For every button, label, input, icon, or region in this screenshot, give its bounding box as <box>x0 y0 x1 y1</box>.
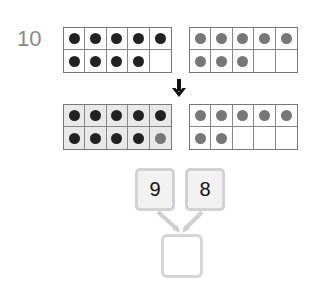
ten-frame-cell <box>85 50 106 72</box>
black-dot-icon <box>133 133 144 144</box>
ten-frame-cell <box>276 105 297 127</box>
ten-frame-cell <box>107 28 128 50</box>
ten-frame-cell <box>190 105 211 127</box>
gray-dot-icon <box>195 56 206 67</box>
ten-frame-cell <box>107 127 128 149</box>
ten-frame-cell <box>64 28 85 50</box>
ten-frame-cell <box>233 127 254 149</box>
ten-frame-top-right <box>189 27 298 73</box>
black-dot-icon <box>90 33 101 44</box>
ten-frame-cell <box>190 50 211 72</box>
black-dot-icon <box>90 56 101 67</box>
ten-frame-top-left <box>63 27 172 73</box>
gray-dot-icon <box>195 110 206 121</box>
ten-frame-cell <box>128 105 149 127</box>
ten-frame-cell <box>254 127 275 149</box>
ten-frame-cell <box>107 50 128 72</box>
black-dot-icon <box>111 110 122 121</box>
ten-frame-cell <box>254 105 275 127</box>
ten-frame-cell <box>150 50 171 72</box>
gray-dot-icon <box>281 33 292 44</box>
gray-dot-icon <box>216 56 227 67</box>
ten-frame-cell <box>211 50 232 72</box>
ten-frame-cell <box>128 50 149 72</box>
ten-frame-cell <box>190 28 211 50</box>
black-dot-icon <box>69 33 80 44</box>
down-arrow-icon <box>171 79 187 99</box>
ten-frame-cell <box>64 105 85 127</box>
ten-frame-cell <box>254 50 275 72</box>
ten-frame-cell <box>211 127 232 149</box>
ten-frame-cell <box>150 28 171 50</box>
ten-frame-cell <box>128 127 149 149</box>
gray-dot-icon <box>259 33 270 44</box>
black-dot-icon <box>69 56 80 67</box>
ten-frame-cell <box>64 50 85 72</box>
ten-frame-cell <box>85 127 106 149</box>
ten-frame-cell <box>150 127 171 149</box>
bond-answer-box[interactable] <box>161 234 203 278</box>
gray-dot-icon <box>155 133 166 144</box>
ten-frame-cell <box>190 127 211 149</box>
black-dot-icon <box>155 110 166 121</box>
ten-frame-cell <box>233 50 254 72</box>
ten-frame-cell <box>64 127 85 149</box>
black-dot-icon <box>90 133 101 144</box>
gray-dot-icon <box>195 33 206 44</box>
gray-dot-icon <box>216 33 227 44</box>
problem-number: 10 <box>17 27 41 51</box>
black-dot-icon <box>133 33 144 44</box>
ten-frame-bottom-left <box>63 104 172 150</box>
ten-frame-cell <box>233 28 254 50</box>
ten-frame-cell <box>211 28 232 50</box>
gray-dot-icon <box>237 33 248 44</box>
ten-frame-cell <box>276 50 297 72</box>
black-dot-icon <box>111 133 122 144</box>
ten-frame-bottom-right <box>189 104 298 150</box>
black-dot-icon <box>69 133 80 144</box>
gray-dot-icon <box>216 110 227 121</box>
bond-part-right: 8 <box>185 168 225 211</box>
black-dot-icon <box>155 33 166 44</box>
ten-frame-cell <box>276 28 297 50</box>
gray-dot-icon <box>195 133 206 144</box>
gray-dot-icon <box>237 56 248 67</box>
gray-dot-icon <box>281 110 292 121</box>
black-dot-icon <box>111 33 122 44</box>
black-dot-icon <box>133 56 144 67</box>
black-dot-icon <box>90 110 101 121</box>
bond-part-left: 9 <box>135 168 175 211</box>
ten-frame-cell <box>107 105 128 127</box>
ten-frame-cell <box>211 105 232 127</box>
gray-dot-icon <box>237 110 248 121</box>
ten-frame-cell <box>150 105 171 127</box>
ten-frame-cell <box>85 105 106 127</box>
ten-frame-cell <box>128 28 149 50</box>
black-dot-icon <box>111 56 122 67</box>
ten-frame-cell <box>254 28 275 50</box>
gray-dot-icon <box>216 133 227 144</box>
ten-frame-cell <box>276 127 297 149</box>
black-dot-icon <box>69 110 80 121</box>
gray-dot-icon <box>259 110 270 121</box>
ten-frame-cell <box>233 105 254 127</box>
black-dot-icon <box>133 110 144 121</box>
ten-frame-cell <box>85 28 106 50</box>
